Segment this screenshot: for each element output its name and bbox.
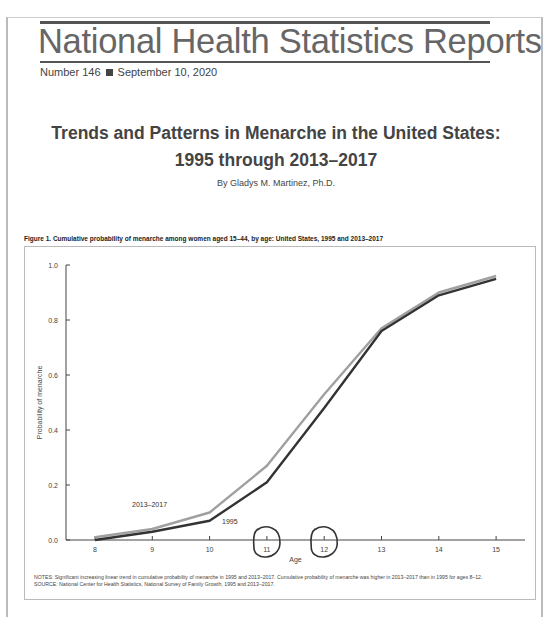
chart-axes bbox=[66, 265, 525, 540]
notes-text: NOTES: Significant increasing linear tre… bbox=[34, 574, 482, 581]
y-tick-label: 0.8 bbox=[48, 317, 58, 324]
y-tick-label: 0.4 bbox=[48, 427, 58, 434]
y-axis-title: Probability of menarche bbox=[36, 366, 44, 440]
x-tick-label: 13 bbox=[378, 546, 386, 553]
x-tick-label: 8 bbox=[93, 546, 97, 553]
series-label-1995: 1995 bbox=[222, 518, 238, 525]
y-tick-label: 0.0 bbox=[48, 537, 58, 544]
x-tick-label: 12 bbox=[320, 546, 328, 553]
figure-notes: NOTES: Significant increasing linear tre… bbox=[34, 574, 482, 588]
y-tick-label: 0.2 bbox=[48, 482, 58, 489]
x-axis-title: Age bbox=[289, 556, 302, 564]
source-text: SOURCE: National Center for Health Stati… bbox=[34, 581, 482, 588]
x-tick-label: 14 bbox=[435, 546, 443, 553]
x-tick-label: 11 bbox=[263, 546, 270, 553]
y-tick-label: 1.0 bbox=[48, 262, 58, 269]
series-label-2013-2017: 2013–2017 bbox=[132, 501, 167, 508]
x-tick-label: 15 bbox=[492, 546, 500, 553]
y-tick-label: 0.6 bbox=[48, 372, 58, 379]
x-tick-label: 9 bbox=[150, 546, 154, 553]
series-line-2013-2017 bbox=[95, 276, 496, 537]
chart-labels: 0.00.20.40.60.81.089101112131415AgeProba… bbox=[36, 262, 500, 565]
x-tick-label: 10 bbox=[206, 546, 214, 553]
